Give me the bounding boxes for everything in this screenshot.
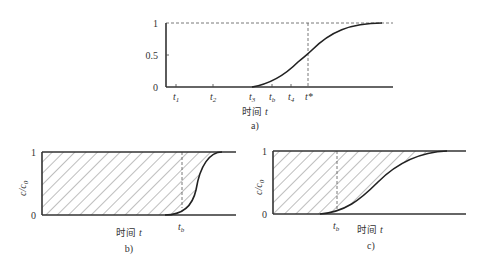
xtick-t3: t3 xyxy=(249,91,256,104)
breakthrough-curves-figure: 1 0.5 0 t1 t2 t3 tb t4 t* 时间t a) 1 0 c/c… xyxy=(0,0,486,265)
ylabel-c: c/c0 xyxy=(253,179,266,195)
ytick-1-b: 1 xyxy=(31,147,36,158)
hatched-area-c xyxy=(273,151,453,214)
xtick-t1: t1 xyxy=(173,91,179,104)
panel-b: 1 0 c/c0 tb 时间t b) xyxy=(17,147,236,255)
xlabel-b: 时间t xyxy=(116,227,142,238)
panel-c: 1 0 c/c0 tb 时间t c) xyxy=(253,146,466,252)
ytick-0-c: 0 xyxy=(262,209,267,220)
ytick-1-c: 1 xyxy=(262,146,267,157)
ylabel-b: c/c0 xyxy=(17,180,30,196)
hatched-area-b xyxy=(42,152,232,215)
breakthrough-curve-a xyxy=(252,23,382,87)
marker-tb-c: tb xyxy=(333,220,340,233)
panel-a: 1 0.5 0 t1 t2 t3 tb t4 t* 时间t a) xyxy=(146,18,394,132)
ytick-0: 0 xyxy=(153,82,158,93)
xlabel-c: 时间t xyxy=(357,224,383,235)
xlabel-a: 时间t xyxy=(242,106,268,117)
panel-label-a: a) xyxy=(251,120,259,132)
ytick-1: 1 xyxy=(153,18,158,29)
xtick-tstar: t* xyxy=(305,91,313,102)
ytick-0-b: 0 xyxy=(31,210,36,221)
marker-tb-b: tb xyxy=(178,221,185,234)
xtick-t2: t2 xyxy=(210,91,217,104)
panel-label-b: b) xyxy=(125,243,133,255)
panel-label-c: c) xyxy=(367,240,375,252)
xtick-t4: t4 xyxy=(288,91,295,104)
xtick-tb: tb xyxy=(269,91,276,104)
